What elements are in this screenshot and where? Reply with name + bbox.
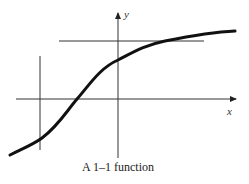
x-axis-label: x <box>226 105 232 117</box>
y-axis-label: y <box>123 8 129 20</box>
function-curve <box>10 31 235 155</box>
figure-caption: A 1–1 function <box>0 160 236 175</box>
function-graph: y x <box>0 0 249 184</box>
